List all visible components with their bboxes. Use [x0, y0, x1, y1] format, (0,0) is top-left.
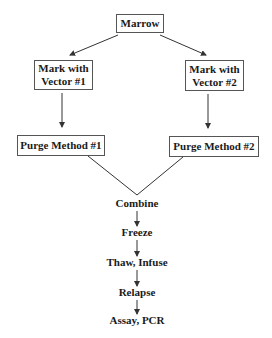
node-mark2-line1: Mark with	[189, 63, 239, 76]
arrow-marrow-to-mark1	[70, 35, 118, 55]
node-marrow: Marrow	[116, 14, 164, 33]
node-mark2-line2: Vector #2	[192, 76, 236, 89]
node-purge-method-1: Purge Method #1	[17, 135, 105, 156]
node-marrow-label: Marrow	[121, 17, 160, 30]
node-thaw-infuse: Thaw, Infuse	[106, 256, 167, 269]
node-assay-pcr: Assay, PCR	[109, 314, 164, 327]
node-mark1-line1: Mark with	[38, 62, 88, 75]
arrow-marrow-to-mark2	[160, 35, 206, 55]
line-purge2-to-combine	[137, 157, 183, 195]
node-relapse: Relapse	[119, 286, 156, 299]
node-combine: Combine	[116, 197, 159, 210]
node-mark-vector-2: Mark with Vector #2	[185, 60, 244, 91]
node-purge1-label: Purge Method #1	[20, 139, 101, 152]
line-purge1-to-combine	[88, 156, 137, 195]
node-mark-vector-1: Mark with Vector #1	[34, 60, 93, 90]
node-freeze: Freeze	[122, 226, 153, 239]
node-purge-method-2: Purge Method #2	[169, 136, 259, 157]
node-mark1-line2: Vector #1	[41, 75, 85, 88]
node-purge2-label: Purge Method #2	[173, 140, 254, 153]
